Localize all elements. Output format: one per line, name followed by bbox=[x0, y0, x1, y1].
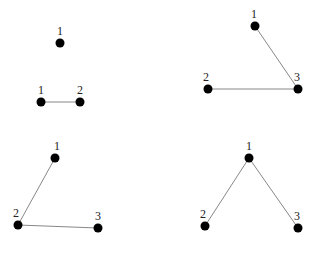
edge bbox=[255, 26, 298, 89]
node-label: 2 bbox=[77, 83, 83, 97]
node-label: 1 bbox=[54, 139, 60, 153]
node-dot bbox=[294, 85, 303, 94]
node-dot bbox=[51, 154, 60, 163]
node-label: 3 bbox=[294, 70, 300, 84]
graph-diagram: 112123123123 bbox=[0, 0, 320, 253]
node-dot bbox=[294, 224, 303, 233]
node-label: 2 bbox=[200, 207, 206, 221]
node-label: 1 bbox=[251, 7, 257, 21]
node-label: 1 bbox=[246, 139, 252, 153]
node-label: 3 bbox=[95, 209, 101, 223]
node-dot bbox=[14, 221, 23, 230]
node-dot bbox=[245, 154, 254, 163]
node-dot bbox=[94, 224, 103, 233]
graph-d: 123 bbox=[200, 139, 303, 233]
node-dot bbox=[56, 39, 65, 48]
graph-b: 123 bbox=[203, 7, 303, 94]
edge bbox=[18, 225, 98, 228]
edge bbox=[18, 158, 55, 225]
node-dot bbox=[201, 222, 210, 231]
node-label: 3 bbox=[294, 209, 300, 223]
edge bbox=[249, 158, 298, 228]
graph-a: 112 bbox=[37, 24, 85, 107]
node-label: 2 bbox=[13, 206, 19, 220]
graph-c: 123 bbox=[13, 139, 103, 233]
node-dot bbox=[76, 98, 85, 107]
node-dot bbox=[204, 85, 213, 94]
node-label: 1 bbox=[57, 24, 63, 38]
node-dot bbox=[251, 22, 260, 31]
edge bbox=[205, 158, 249, 226]
node-dot bbox=[37, 98, 46, 107]
node-label: 2 bbox=[203, 70, 209, 84]
node-label: 1 bbox=[38, 83, 44, 97]
